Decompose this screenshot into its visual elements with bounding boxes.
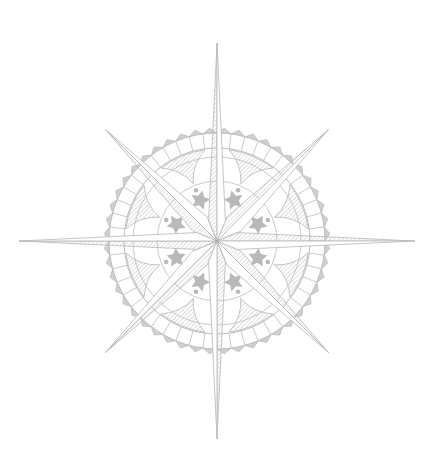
ornament-dot: [194, 188, 199, 193]
center-dot: [215, 239, 218, 242]
ornament-dot: [164, 260, 169, 265]
ornament-dot: [266, 218, 271, 223]
ornament-dot: [164, 218, 169, 223]
ornament-dot: [236, 188, 241, 193]
ornament-dot: [236, 290, 241, 295]
compass-star: [19, 43, 415, 439]
ornament-dot: [266, 260, 271, 265]
ornament-dot: [194, 290, 199, 295]
compass-rose: [0, 0, 433, 473]
